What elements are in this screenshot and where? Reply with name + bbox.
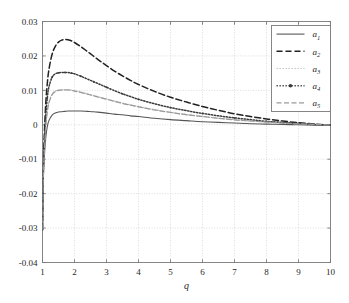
y-tick-label: 0.01 (22, 86, 38, 96)
series-marker-a4 (93, 81, 95, 83)
chart-legend[interactable]: a1a2a3a4a5 (272, 26, 331, 112)
x-tick-labels: 12345678910 (40, 267, 335, 277)
x-tick-label: 3 (104, 267, 109, 277)
x-tick-label: 7 (232, 267, 237, 277)
x-axis-title: q (184, 280, 189, 291)
y-tick-label: -0.02 (19, 189, 38, 199)
series-marker-a4 (64, 72, 66, 74)
y-tick-label: 0 (33, 120, 38, 130)
x-tick-label: 6 (200, 267, 205, 277)
x-tick-label: 1 (40, 267, 45, 277)
series-line-a1 (43, 111, 331, 230)
y-tick-labels: 0.030.020.010-0.01-0.02-0.03-0.04 (19, 17, 38, 268)
x-tick-label: 5 (168, 267, 173, 277)
series-marker-a4 (51, 76, 53, 78)
y-tick-label: 0.02 (22, 51, 38, 61)
chart-figure: 0.030.020.010-0.01-0.02-0.03-0.04 123456… (0, 0, 349, 303)
line-chart: 0.030.020.010-0.01-0.02-0.03-0.04 123456… (0, 0, 349, 303)
x-tick-label: 2 (72, 267, 77, 277)
series-marker-a4 (170, 107, 172, 109)
x-tick-label: 8 (264, 267, 269, 277)
legend-marker-a4 (289, 84, 293, 88)
x-tick-label: 10 (326, 267, 336, 277)
x-tick-label: 9 (296, 267, 301, 277)
y-tick-label: -0.03 (19, 223, 38, 233)
series-marker-a4 (202, 113, 204, 115)
series-marker-a4 (46, 97, 48, 99)
series-marker-a4 (330, 124, 332, 126)
series-marker-a4 (58, 72, 60, 74)
x-axis-title-text: q (184, 280, 189, 291)
x-tick-label: 4 (136, 267, 141, 277)
series-marker-a4 (138, 98, 140, 100)
series-marker-a4 (234, 117, 236, 119)
y-tick-label: 0.03 (22, 17, 38, 27)
y-tick-label: -0.01 (19, 154, 38, 164)
series-marker-a4 (70, 72, 72, 74)
series-marker-a4 (106, 86, 108, 88)
y-tick-label: -0.04 (19, 258, 38, 268)
series-marker-a4 (80, 75, 82, 77)
series-marker-a4 (122, 93, 124, 95)
